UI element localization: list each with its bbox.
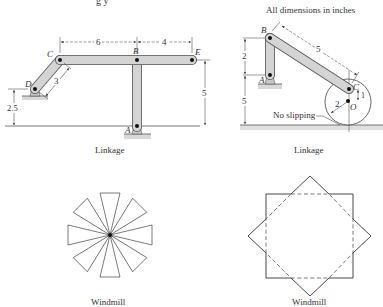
diamond-bottom (291, 278, 329, 296)
dim-1: 1 (361, 91, 365, 100)
pin-c-right (347, 87, 351, 91)
note-all-dimensions: All dimensions in inches (266, 5, 356, 15)
pin-a-right (268, 73, 272, 77)
octagram-inner (266, 194, 353, 278)
octagram-outer (248, 176, 371, 296)
diamond-left (248, 219, 266, 253)
dim-4: 4 (162, 37, 167, 47)
label-c-right: C (353, 82, 360, 92)
dim-2-5: 2.5 (7, 103, 18, 113)
caption-windmill-left: Windmill (91, 297, 126, 307)
dim-5-right-diag: 5 (316, 44, 321, 54)
dim-5-right-height: 5 (242, 96, 247, 106)
support-d-hatch (22, 96, 48, 100)
dim-radius-2: 2 (335, 99, 340, 109)
pin-a (135, 124, 139, 128)
cropped-top-text: g y (96, 0, 109, 6)
pin-e (190, 58, 194, 62)
caption-windmill-right: Windmill (292, 297, 327, 307)
label-a-right: A (258, 75, 265, 85)
diamond-right (353, 219, 371, 253)
dim-5-left: 5 (202, 88, 207, 98)
no-slipping-label: No slipping (273, 110, 316, 120)
caption-linkage-left: Linkage (95, 145, 125, 155)
windmill-left-figure: Windmill (68, 193, 152, 307)
figure-canvas: g y C B E D A (0, 0, 383, 307)
label-d: D (24, 79, 32, 89)
label-b: B (133, 46, 139, 56)
inner-octagon (266, 194, 353, 278)
pin-c (58, 58, 62, 62)
dim-3: 3 (54, 76, 59, 86)
windmill-blades (68, 193, 152, 277)
label-b-right: B (261, 25, 267, 35)
diamond-top (291, 176, 329, 194)
bar-bc-right-fill (270, 38, 349, 89)
windmill-right-figure: Windmill (248, 176, 371, 307)
pin-d (33, 87, 37, 91)
linkage-right-figure: All dimensions in inches B A C O (240, 5, 383, 155)
dim-ext-b-diag-right (272, 22, 280, 31)
pin-b-right (268, 36, 272, 40)
caption-linkage-right: Linkage (294, 145, 324, 155)
pin-b (135, 58, 139, 62)
dim-6: 6 (96, 37, 101, 47)
label-c: C (47, 49, 54, 59)
label-o-right: O (350, 102, 357, 112)
linkage-left-figure: C B E D A 6 4 5 2.5 3 Linkage (5, 37, 210, 155)
ground-hatch (240, 125, 383, 130)
windmill-hub (108, 233, 112, 237)
label-a: A (124, 125, 131, 135)
dim-2-right: 2 (242, 51, 247, 61)
label-e: E (194, 47, 201, 57)
